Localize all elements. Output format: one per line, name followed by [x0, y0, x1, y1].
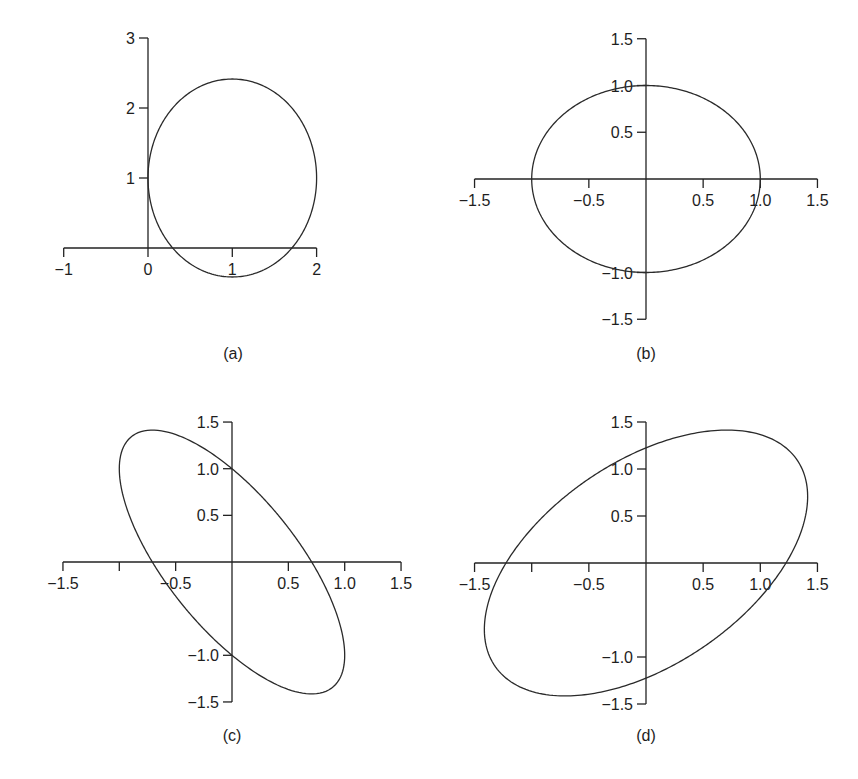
y-tick-label: 1 — [126, 170, 135, 187]
y-tick-label: 0.5 — [611, 124, 633, 141]
panel-a: −1012123 (a) — [55, 30, 322, 362]
y-tick-label: 0.5 — [197, 507, 219, 524]
x-tick-label: 0 — [144, 261, 153, 278]
x-tick-label: 0.5 — [692, 576, 714, 593]
x-tick-label: 1.0 — [334, 575, 356, 592]
panel-c-caption: (c) — [223, 727, 242, 744]
y-tick-label: −1.5 — [601, 696, 633, 713]
y-tick-label: 1.5 — [611, 31, 633, 48]
x-tick-label: 1.5 — [806, 576, 828, 593]
figure: −1012123 (a) −1.5−0.50.51.01.5−1.5−1.00.… — [0, 0, 858, 779]
panel-c: −1.5−0.50.51.01.5−1.5−1.00.51.01.5 (c) — [47, 414, 412, 744]
panel-d: −1.5−0.50.51.01.5−1.5−1.00.51.01.5 (d) — [459, 414, 829, 744]
y-tick-label: 1.5 — [611, 414, 633, 431]
x-tick-label: 0.5 — [692, 192, 714, 209]
panel-c-axes: −1.5−0.50.51.01.5−1.5−1.00.51.01.5 — [47, 414, 412, 711]
y-tick-label: 1.5 — [197, 414, 219, 431]
x-tick-label: −1.5 — [459, 192, 491, 209]
y-tick-label: −1.0 — [187, 647, 219, 664]
panel-b: −1.5−0.50.51.01.5−1.5−1.00.51.01.5 (b) — [459, 31, 829, 362]
x-tick-label: −0.5 — [573, 192, 605, 209]
x-tick-label: −1.5 — [459, 576, 491, 593]
y-tick-label: 3 — [126, 30, 135, 47]
y-tick-label: −1.5 — [187, 694, 219, 711]
panel-d-caption: (d) — [636, 727, 656, 744]
x-tick-label: 1.5 — [390, 575, 412, 592]
x-tick-label: 1.0 — [749, 576, 771, 593]
x-tick-label: −0.5 — [160, 575, 192, 592]
x-tick-label: 1.5 — [806, 192, 828, 209]
panel-a-ellipse — [148, 79, 317, 277]
y-tick-label: −1.0 — [601, 649, 633, 666]
panel-d-axes: −1.5−0.50.51.01.5−1.5−1.00.51.01.5 — [459, 414, 829, 713]
y-tick-label: 0.5 — [611, 508, 633, 525]
x-tick-label: 0.5 — [277, 575, 299, 592]
y-tick-label: 2 — [126, 100, 135, 117]
panel-b-axes: −1.5−0.50.51.01.5−1.5−1.00.51.01.5 — [459, 31, 829, 329]
x-tick-label: 1.0 — [749, 192, 771, 209]
y-tick-label: −1.5 — [601, 311, 633, 328]
panel-a-axes: −1012123 — [55, 30, 322, 278]
x-tick-label: −1.5 — [47, 575, 79, 592]
x-tick-label: −0.5 — [573, 576, 605, 593]
panel-b-caption: (b) — [636, 345, 656, 362]
x-tick-label: −1 — [55, 261, 73, 278]
y-tick-label: 1.0 — [197, 461, 219, 478]
x-tick-label: 1 — [228, 261, 237, 278]
x-tick-label: 2 — [312, 261, 321, 278]
panel-a-caption: (a) — [223, 345, 243, 362]
